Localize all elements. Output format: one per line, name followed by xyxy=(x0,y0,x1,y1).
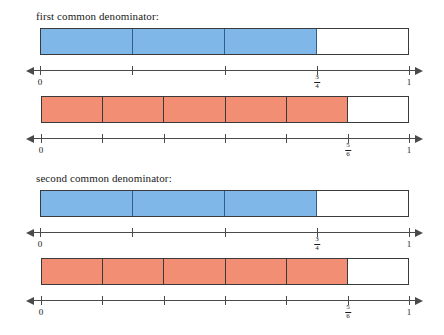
bar-cell xyxy=(348,97,408,122)
bar-cell xyxy=(225,191,317,216)
fraction-bar-blue-1 xyxy=(40,28,409,55)
axis-label-fraction-three-fourths: 3 4 xyxy=(314,236,320,252)
bar-cell xyxy=(42,97,103,122)
bar-cell xyxy=(348,259,408,284)
axis-tick xyxy=(225,134,226,143)
section-heading-second: second common denominator: xyxy=(36,172,172,184)
axis-tick xyxy=(164,134,165,143)
axis-tick xyxy=(164,296,165,305)
axis-label-zero: 0 xyxy=(38,77,43,87)
bar-cell xyxy=(133,29,225,54)
number-line-blue-2: 0 1 3 4 xyxy=(33,232,416,233)
fraction-denominator: 6 xyxy=(345,151,351,158)
bar-cell xyxy=(226,97,287,122)
number-line-blue-1: 0 1 3 4 xyxy=(33,70,416,71)
bar-cell xyxy=(317,191,408,216)
bar-cell xyxy=(41,191,133,216)
axis-label-zero: 0 xyxy=(39,145,44,155)
fraction-denominator: 4 xyxy=(314,83,320,90)
axis-arrow-left-icon xyxy=(26,67,34,75)
axis-label-zero: 0 xyxy=(38,239,43,249)
axis-tick xyxy=(132,228,133,237)
axis-label-fraction-five-sixths: 5 6 xyxy=(345,304,351,320)
axis-label-one: 1 xyxy=(407,239,412,249)
bar-cell xyxy=(103,259,164,284)
axis-tick xyxy=(41,296,42,305)
fraction-bar-blue-2 xyxy=(40,190,409,217)
axis-arrow-left-icon xyxy=(26,297,34,305)
bar-cell xyxy=(317,29,408,54)
axis-label-one: 1 xyxy=(407,145,412,155)
fraction-bar-red-1 xyxy=(41,96,409,123)
axis-tick xyxy=(40,66,41,75)
fraction-numerator: 5 xyxy=(345,142,351,149)
axis-tick xyxy=(41,134,42,143)
fraction-numerator: 3 xyxy=(314,236,320,243)
bar-cell xyxy=(226,259,287,284)
axis-tick xyxy=(225,296,226,305)
axis-tick xyxy=(225,228,226,237)
fraction-denominator: 4 xyxy=(314,245,320,252)
bar-cell xyxy=(133,191,225,216)
axis-arrow-left-icon xyxy=(26,135,34,143)
fraction-numerator: 5 xyxy=(345,304,351,311)
fraction-bar-red-2 xyxy=(41,258,409,285)
bar-cell xyxy=(42,259,103,284)
bar-cell xyxy=(225,29,317,54)
axis-arrow-right-icon xyxy=(415,67,423,75)
axis-arrow-right-icon xyxy=(415,135,423,143)
bar-cell xyxy=(164,97,225,122)
axis-tick xyxy=(40,228,41,237)
axis-tick xyxy=(409,296,410,305)
axis-label-fraction-five-sixths: 5 6 xyxy=(345,142,351,158)
axis-arrow-right-icon xyxy=(415,229,423,237)
axis-tick xyxy=(409,66,410,75)
axis-label-fraction-three-fourths: 3 4 xyxy=(314,74,320,90)
axis-label-one: 1 xyxy=(407,77,412,87)
bar-cell xyxy=(103,97,164,122)
axis-arrow-right-icon xyxy=(415,297,423,305)
axis-tick xyxy=(286,296,287,305)
axis-tick xyxy=(409,134,410,143)
axis-tick xyxy=(102,296,103,305)
number-line-red-1: 0 1 5 6 xyxy=(33,138,416,139)
axis-tick xyxy=(102,134,103,143)
axis-tick xyxy=(225,66,226,75)
bar-cell xyxy=(287,259,348,284)
fraction-numerator: 3 xyxy=(314,74,320,81)
fraction-diagram-canvas: first common denominator: 0 1 3 4 xyxy=(0,0,444,335)
number-line-red-2: 0 1 5 6 xyxy=(33,300,416,301)
bar-cell xyxy=(41,29,133,54)
axis-label-one: 1 xyxy=(407,307,412,317)
bar-cell xyxy=(164,259,225,284)
axis-label-zero: 0 xyxy=(39,307,44,317)
bar-cell xyxy=(287,97,348,122)
axis-tick xyxy=(286,134,287,143)
section-heading-first: first common denominator: xyxy=(36,10,159,22)
axis-tick xyxy=(132,66,133,75)
axis-arrow-left-icon xyxy=(26,229,34,237)
fraction-denominator: 6 xyxy=(345,313,351,320)
axis-tick xyxy=(409,228,410,237)
